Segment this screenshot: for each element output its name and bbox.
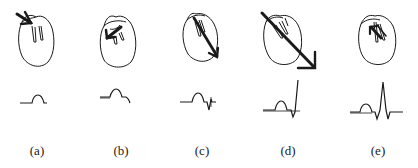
panel-label-a: (a) [30, 143, 44, 159]
ecg-waveform [350, 82, 403, 119]
depolarization-vector-arrow-icon [262, 13, 315, 68]
panel-b [100, 16, 136, 103]
panel-e [350, 15, 403, 119]
panel-label-b: (b) [113, 143, 128, 159]
panel-label-d: (d) [280, 143, 295, 159]
panel-a [17, 12, 54, 103]
panel-c [180, 13, 218, 110]
depolarization-vector-arrow-icon [17, 12, 31, 24]
panel-label-e: (e) [371, 143, 385, 159]
ecg-waveform [263, 80, 300, 117]
ecg-waveform [180, 93, 216, 110]
panel-label-c: (c) [195, 143, 209, 159]
heart-outline-icon [100, 16, 136, 67]
ecg-vector-figure: (a) (b) (c) (d) (e) [0, 0, 418, 168]
depolarization-vector-arrow-icon [106, 27, 121, 38]
ecg-waveform [20, 95, 47, 103]
ecg-waveform [100, 89, 130, 103]
heart-outline-icon [359, 15, 396, 64]
panel-d [262, 13, 315, 117]
